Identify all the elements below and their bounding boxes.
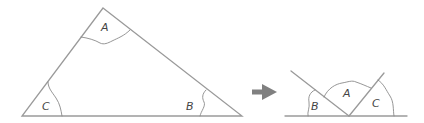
tear-line-c [48, 82, 62, 116]
vertex-label-b: B [186, 100, 194, 113]
right-arrow-icon [252, 84, 277, 100]
angle-label-c: C [372, 97, 380, 110]
rearranged-angles: B A C [285, 71, 407, 116]
vertex-label-c: C [42, 100, 50, 113]
triangle: A C B [22, 8, 242, 116]
vertex-label-a: A [100, 21, 109, 34]
angle-sum-diagram: A C B B A C [0, 0, 424, 123]
tear-line-c-piece [378, 80, 394, 116]
left-ray [291, 71, 349, 116]
tear-line-b [200, 90, 206, 116]
angle-label-a: A [342, 87, 351, 100]
triangle-outline [22, 8, 242, 116]
angle-label-b: B [311, 100, 319, 113]
